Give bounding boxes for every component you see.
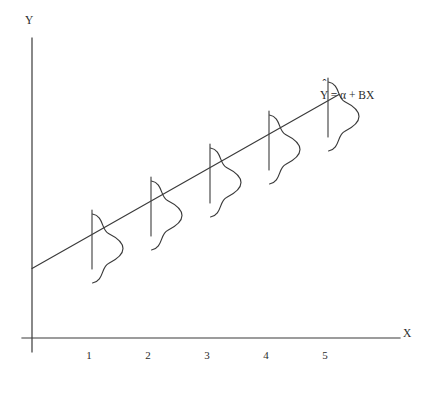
x-axis-label: X	[403, 327, 412, 339]
x-tick-label-4: 4	[263, 349, 269, 361]
x-tick-label-1: 1	[86, 349, 92, 361]
distribution-curve-1	[93, 214, 124, 283]
regression-line-group	[32, 95, 339, 269]
distribution-curve-2	[152, 181, 183, 250]
error-distribution-1	[92, 210, 123, 283]
regression-figure: Y X 1 2 3 4 5 ˆ Y = α + BX	[0, 0, 442, 393]
equation-text: Y = α + BX	[320, 89, 375, 101]
y-axis-label: Y	[25, 14, 34, 26]
axes-group	[22, 38, 400, 352]
error-distribution-2	[151, 177, 182, 250]
regression-line	[32, 95, 339, 269]
x-tick-label-2: 2	[145, 349, 151, 361]
error-distribution-3	[210, 144, 241, 217]
error-distribution-4	[269, 111, 300, 184]
x-tick-label-5: 5	[322, 349, 328, 361]
x-tick-label-3: 3	[204, 349, 210, 361]
regression-plot-svg: Y X 1 2 3 4 5 ˆ Y = α + BX	[0, 0, 442, 393]
